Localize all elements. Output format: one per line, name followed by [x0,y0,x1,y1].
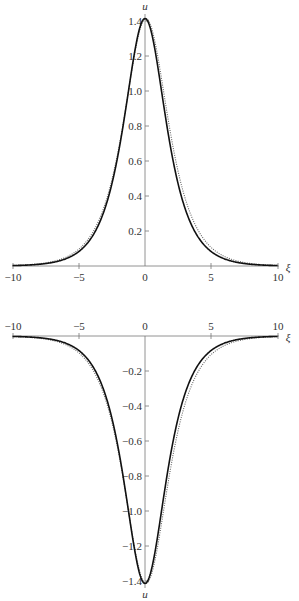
bottom-xtick-label: 0 [142,320,148,332]
top-ytick-label: 1.0 [128,85,142,97]
top-ytick-label: 0.2 [128,225,142,237]
bottom-ytick-label: −0.6 [122,435,142,447]
figure: −10 −5 0 5 10 0.2 0.4 0.6 0.8 1.0 1.2 1.… [0,0,299,601]
bottom-ytick-label: −0.8 [122,470,142,482]
bottom-ytick-label: −1.0 [122,505,142,517]
top-y-ticks [145,21,149,231]
bottom-dotted-curve [14,337,279,584]
bottom-xtick-label: −5 [73,320,85,332]
bottom-y-ticks [145,371,149,581]
top-xtick-label: 0 [142,271,148,283]
top-x-axis-label: ξ [286,261,291,274]
bottom-ytick-label: −0.4 [122,400,142,412]
bottom-xtick-label: 5 [208,320,214,332]
bottom-xtick-label: −10 [4,320,22,332]
top-xtick-label: 10 [273,271,285,283]
top-y-axis-label: u [142,0,148,12]
top-xtick-label: 5 [208,271,214,283]
bottom-ytick-label: −1.2 [122,540,142,552]
top-ytick-label: 0.4 [128,190,142,202]
bottom-ytick-label: −0.2 [122,365,142,377]
top-dotted-curve [14,19,279,266]
bottom-x-axis-label: ξ [286,331,291,344]
bottom-y-axis-label: u [142,588,148,600]
top-ytick-label: 0.6 [128,155,142,167]
bottom-ytick-label: −1.4 [122,575,142,587]
bottom-xtick-label: 10 [273,320,285,332]
top-chart: −10 −5 0 5 10 0.2 0.4 0.6 0.8 1.0 1.2 1.… [4,0,290,283]
top-xtick-label: −5 [73,271,85,283]
top-ytick-label: 0.8 [128,120,142,132]
top-xtick-label: −10 [4,271,22,283]
bottom-chart: −10 −5 0 5 10 −0.2 −0.4 −0.6 −0.8 −1.0 −… [4,320,290,600]
